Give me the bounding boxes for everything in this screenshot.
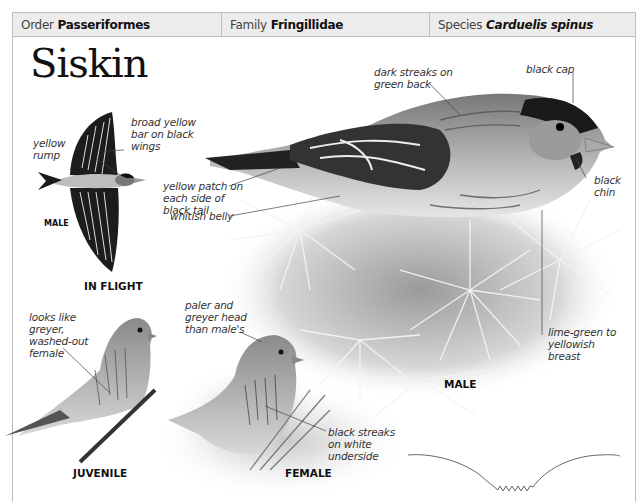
flight-sex-label: MALE (44, 219, 69, 228)
female-caption: FEMALE (285, 467, 332, 479)
juvenile-caption: JUVENILE (73, 467, 127, 479)
annotation-belly: whitish belly (170, 210, 260, 222)
annotation-back: dark streaks on green back (374, 66, 464, 90)
annotation-female-head: paler and greyer head than male's (185, 299, 265, 335)
annotation-female-underside: black streaks on white underside (328, 426, 396, 462)
annotation-wing-bar: broad yellow bar on black wings (131, 116, 211, 152)
annotation-juvenile: looks like greyer, washed-out female (29, 311, 109, 359)
flight-bird-illustration (38, 112, 146, 272)
annotation-chin: black chin (594, 174, 630, 198)
annotation-rump: yellow rump (33, 137, 73, 161)
flight-caption: IN FLIGHT (84, 280, 143, 292)
flight-path-icon (408, 455, 620, 491)
male-bird-illustration (205, 94, 614, 217)
annotation-cap: black cap (526, 63, 596, 75)
annotation-breast: lime-green to yellowish breast (548, 326, 618, 362)
male-caption: MALE (444, 378, 476, 390)
